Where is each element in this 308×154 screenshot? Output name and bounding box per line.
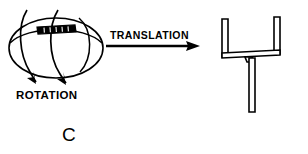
translation-arrow bbox=[106, 41, 200, 51]
panel-label: C bbox=[62, 124, 76, 146]
rotation-curve-middle bbox=[51, 10, 66, 83]
ellipsoid-plate bbox=[37, 25, 76, 34]
figure-drawing bbox=[0, 0, 308, 154]
figure-panel-c: ROTATION TRANSLATION C bbox=[0, 0, 308, 154]
rotating-ellipsoid bbox=[9, 10, 103, 85]
translation-label: TRANSLATION bbox=[110, 29, 189, 41]
rotation-label: ROTATION bbox=[16, 89, 78, 101]
goalpost-post bbox=[249, 58, 255, 112]
goalpost-shape bbox=[222, 17, 280, 112]
goalpost-right-upright bbox=[274, 17, 280, 54]
goalpost-left-upright bbox=[222, 19, 228, 57]
translation-arrow-head bbox=[186, 41, 200, 51]
